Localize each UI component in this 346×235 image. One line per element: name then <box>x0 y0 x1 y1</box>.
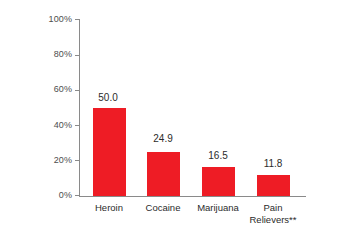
y-tick-mark <box>75 125 79 126</box>
bar-heroin <box>93 108 126 196</box>
x-axis-line <box>79 196 306 197</box>
y-tick-20: 20% <box>0 156 72 165</box>
bar-value-label: 50.0 <box>78 93 138 103</box>
bar-value-label: 11.8 <box>243 159 303 169</box>
y-tick-label: 100% <box>0 15 72 24</box>
category-label-pain-relievers: Pain Relievers** <box>233 202 313 226</box>
y-tick-mark <box>75 195 79 196</box>
bar-chart: 100% 80% 60% 40% 20% 0% 50.0 24.9 16.5 1… <box>0 0 346 235</box>
bar-marijuana <box>202 167 235 196</box>
y-tick-label: 20% <box>0 156 72 165</box>
y-tick-mark <box>75 55 79 56</box>
y-tick-mark <box>75 19 79 20</box>
bar-value-label: 24.9 <box>133 134 193 144</box>
y-tick-label: 60% <box>0 85 72 94</box>
y-tick-label: 80% <box>0 50 72 59</box>
y-tick-label: 40% <box>0 121 72 130</box>
category-label-line2: Relievers** <box>233 214 313 226</box>
y-axis-line <box>79 19 80 197</box>
y-tick-mark <box>75 90 79 91</box>
y-tick-100: 100% <box>0 15 72 24</box>
y-tick-mark <box>75 160 79 161</box>
y-tick-0: 0% <box>0 191 72 200</box>
bar-value-label: 16.5 <box>188 151 248 161</box>
category-label-line1: Pain <box>233 202 313 214</box>
bar-cocaine <box>147 152 180 196</box>
y-tick-40: 40% <box>0 121 72 130</box>
bar-pain-relievers <box>257 175 290 196</box>
y-tick-80: 80% <box>0 50 72 59</box>
y-tick-60: 60% <box>0 85 72 94</box>
y-tick-label: 0% <box>0 191 72 200</box>
